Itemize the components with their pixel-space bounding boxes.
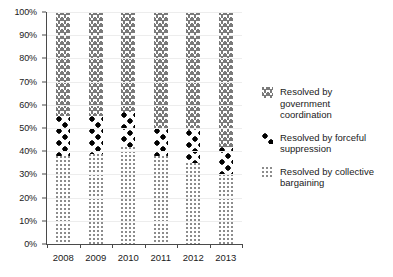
gridline: [47, 105, 242, 106]
legend-item[interactable]: Resolved by forceful suppression: [262, 132, 390, 155]
y-tick-label: 60%: [19, 100, 37, 109]
legend-label: Resolved by collective bargaining: [280, 166, 374, 189]
bar-segment: [121, 112, 135, 147]
gridline: [47, 128, 242, 129]
x-tick-label: 2011: [151, 253, 171, 263]
y-tick-mark: [42, 151, 46, 152]
bar-segment: [154, 156, 168, 244]
plot-area: 0%10%20%30%40%50%60%70%80%90%100% 200820…: [0, 0, 250, 277]
bar-segment: [89, 12, 103, 116]
legend-item[interactable]: Resolved by government coordination: [262, 86, 390, 121]
gridline: [47, 82, 242, 83]
x-tick-mark: [210, 244, 211, 248]
x-tick-mark: [242, 244, 243, 248]
gridline: [47, 198, 242, 199]
x-tick-label: 2009: [85, 253, 106, 263]
x-tick-mark: [80, 244, 81, 248]
bar-segment: [121, 12, 135, 112]
x-tick-mark: [145, 244, 146, 248]
y-tick-mark: [42, 12, 46, 13]
y-tick-mark: [42, 174, 46, 175]
chart-legend: Resolved by government coordinationResol…: [262, 86, 390, 200]
x-tick-mark: [112, 244, 113, 248]
x-tick-label: 2008: [53, 253, 74, 263]
y-tick-label: 10%: [19, 216, 37, 225]
gridline: [47, 35, 242, 36]
bar-segment: [56, 116, 70, 155]
gridline: [47, 174, 242, 175]
y-tick-mark: [42, 128, 46, 129]
y-tick-label: 80%: [19, 54, 37, 63]
x-tick-label: 2012: [183, 253, 204, 263]
legend-item[interactable]: Resolved by collective bargaining: [262, 166, 390, 189]
bar-segment: [89, 154, 103, 244]
y-tick-mark: [42, 81, 46, 82]
legend-swatch-icon: [262, 167, 273, 178]
bar-segment: [219, 174, 233, 244]
bar-segment: [121, 147, 135, 244]
bar-segment: [56, 12, 70, 116]
x-tick-mark: [177, 244, 178, 248]
y-tick-label: 90%: [19, 31, 37, 40]
bar-segment: [89, 116, 103, 153]
bar-segment: [219, 12, 233, 147]
y-tick-mark: [42, 58, 46, 59]
bar-segment: [186, 130, 200, 162]
y-tick-mark: [42, 197, 46, 198]
y-tick-mark: [42, 104, 46, 105]
legend-label: Resolved by forceful suppression: [280, 132, 366, 155]
y-tick-label: 40%: [19, 147, 37, 156]
bar-segment: [154, 12, 168, 128]
y-tick-mark: [42, 220, 46, 221]
y-tick-label: 30%: [19, 170, 37, 179]
bar-segment: [56, 156, 70, 244]
x-tick-label: 2010: [118, 253, 139, 263]
y-tick-label: 0%: [24, 240, 37, 249]
y-tick-mark: [42, 35, 46, 36]
y-tick-label: 50%: [19, 124, 37, 133]
y-tick-label: 20%: [19, 193, 37, 202]
x-axis-labels: 200820092010201120122013: [47, 244, 242, 277]
legend-label: Resolved by government coordination: [280, 86, 332, 121]
x-tick-label: 2013: [215, 253, 236, 263]
y-tick-label: 100%: [14, 8, 37, 17]
legend-swatch-icon: [262, 133, 273, 144]
legend-swatch-icon: [262, 87, 273, 98]
y-tick-label: 70%: [19, 77, 37, 86]
gridline: [47, 58, 242, 59]
gridline: [47, 151, 242, 152]
gridline: [47, 12, 242, 13]
x-tick-mark: [47, 244, 48, 248]
gridline: [47, 221, 242, 222]
stacked-bar-chart: 0%10%20%30%40%50%60%70%80%90%100% 200820…: [0, 0, 393, 277]
y-tick-mark: [42, 244, 46, 245]
y-axis-labels: 0%10%20%30%40%50%60%70%80%90%100%: [0, 0, 42, 277]
bar-segment: [186, 12, 200, 130]
